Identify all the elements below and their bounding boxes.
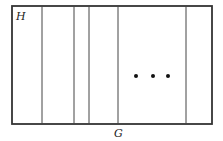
dot-3 (166, 74, 170, 78)
partition-diagram: H G (0, 0, 223, 141)
ellipsis-dots (134, 74, 170, 78)
dot-1 (134, 74, 138, 78)
dot-2 (151, 74, 155, 78)
label-h: H (15, 10, 26, 23)
label-g: G (114, 127, 123, 140)
vertical-partition-lines (42, 6, 186, 124)
